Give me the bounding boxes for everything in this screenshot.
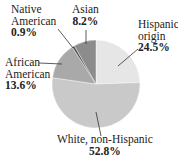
- label-asian: Asian 8.2%: [72, 4, 99, 27]
- label-native-american: Native American 0.9%: [11, 4, 56, 39]
- pie-slice-white-non-hispanic: [52, 78, 140, 128]
- label-african-american: African American 13.6%: [5, 57, 50, 92]
- label-native-value: 0.9%: [11, 27, 56, 39]
- label-hispanic-origin: Hispanic origin 24.5%: [138, 19, 178, 54]
- label-asian-line1: Asian: [72, 4, 99, 16]
- pie-slices: [52, 40, 140, 128]
- label-hispanic-line1: Hispanic: [138, 19, 178, 31]
- label-native-line1: Native: [11, 4, 56, 16]
- label-white-non-hispanic: White, non-Hispanic 52.8%: [57, 134, 153, 157]
- pie-slice-hispanic-origin: [96, 40, 140, 84]
- leader-line-native: [58, 29, 73, 48]
- label-african-line1: African: [5, 57, 50, 69]
- label-white-value: 52.8%: [57, 146, 153, 158]
- label-hispanic-value: 24.5%: [138, 42, 178, 54]
- label-african-value: 13.6%: [5, 80, 50, 92]
- label-white-line1: White, non-Hispanic: [57, 134, 153, 146]
- label-asian-value: 8.2%: [72, 16, 99, 28]
